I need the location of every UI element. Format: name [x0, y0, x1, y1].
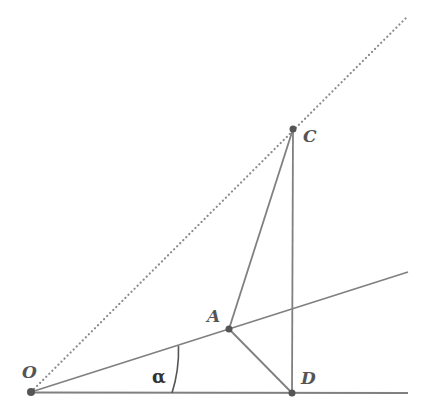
- geometry-figure: O A C D α: [0, 0, 433, 418]
- point-a: [226, 326, 233, 333]
- segment-cd: [292, 129, 293, 393]
- label-o: O: [22, 362, 37, 382]
- angle-arc: [172, 346, 179, 393]
- dotted-ray-oc: [31, 16, 408, 392]
- segment-ad: [229, 329, 292, 393]
- point-d: [289, 390, 296, 397]
- label-alpha: α: [152, 366, 166, 387]
- point-c: [290, 126, 297, 133]
- label-c: C: [303, 126, 317, 146]
- label-a: A: [205, 306, 220, 326]
- segment-ca: [229, 129, 293, 329]
- label-d: D: [300, 368, 316, 388]
- base-ray-od: [31, 393, 408, 394]
- point-o: [27, 388, 35, 396]
- ray-oa: [31, 272, 408, 392]
